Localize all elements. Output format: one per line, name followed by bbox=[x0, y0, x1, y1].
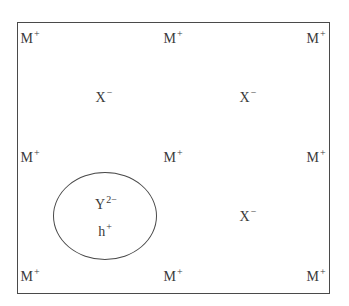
ion-charge: − bbox=[251, 87, 257, 98]
ion-charge: + bbox=[177, 28, 183, 39]
ion-symbol: M bbox=[20, 269, 32, 284]
ion-symbol: M bbox=[306, 150, 318, 165]
ion-symbol: X bbox=[240, 90, 250, 105]
ion-charge: + bbox=[320, 266, 326, 277]
ion-charge: + bbox=[177, 147, 183, 158]
ion-charge: + bbox=[320, 147, 326, 158]
ion-charge: + bbox=[34, 28, 40, 39]
ion-charge: − bbox=[107, 87, 113, 98]
ion-charge: + bbox=[177, 266, 183, 277]
ion-symbol: M bbox=[163, 31, 175, 46]
ion-symbol: Y bbox=[95, 197, 105, 212]
cation-m-middle-right: M+ bbox=[306, 151, 325, 165]
hole-h-label: h+ bbox=[98, 225, 112, 239]
ion-symbol: M bbox=[306, 31, 318, 46]
hole-defect-circle bbox=[53, 172, 157, 260]
cation-m-top-center: M+ bbox=[163, 32, 182, 46]
ion-symbol: M bbox=[163, 150, 175, 165]
ion-symbol: M bbox=[20, 31, 32, 46]
ion-charge: + bbox=[34, 266, 40, 277]
ion-symbol: X bbox=[240, 209, 250, 224]
cation-m-top-right: M+ bbox=[306, 32, 325, 46]
ion-charge: + bbox=[320, 28, 326, 39]
ion-charge: 2− bbox=[106, 194, 117, 205]
ion-charge: + bbox=[106, 221, 112, 232]
cation-m-bottom-right: M+ bbox=[306, 270, 325, 284]
anion-x-upper-left: X− bbox=[96, 91, 113, 105]
impurity-y-label: Y2− bbox=[95, 198, 117, 212]
ion-symbol: h bbox=[98, 224, 105, 239]
cation-m-bottom-left: M+ bbox=[20, 270, 39, 284]
ion-charge: − bbox=[251, 206, 257, 217]
cation-m-bottom-center: M+ bbox=[163, 270, 182, 284]
anion-x-lower-right: X− bbox=[240, 210, 257, 224]
ion-symbol: X bbox=[96, 90, 106, 105]
ion-symbol: M bbox=[306, 269, 318, 284]
ion-symbol: M bbox=[163, 269, 175, 284]
ion-symbol: M bbox=[20, 150, 32, 165]
cation-m-top-left: M+ bbox=[20, 32, 39, 46]
cation-m-middle-left: M+ bbox=[20, 151, 39, 165]
anion-x-upper-right: X− bbox=[240, 91, 257, 105]
ion-charge: + bbox=[34, 147, 40, 158]
cation-m-center: M+ bbox=[163, 151, 182, 165]
